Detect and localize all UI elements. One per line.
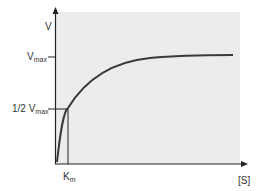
- half-vmax-label: 1/2 Vmax: [12, 104, 49, 115]
- y-axis-arrow-icon: [53, 7, 59, 14]
- km-label: Km: [63, 172, 76, 183]
- michaelis-menten-chart: [0, 0, 261, 191]
- x-axis-label: [S]: [238, 176, 250, 186]
- vmax-label: Vmax: [27, 52, 47, 63]
- y-axis-label: V: [45, 22, 52, 32]
- x-axis-arrow-icon: [241, 161, 248, 167]
